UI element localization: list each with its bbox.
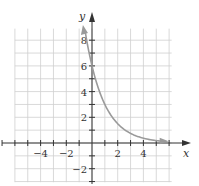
x-tick-label: 2 [115, 148, 121, 159]
y-axis-arrow-icon [89, 12, 95, 22]
y-tick-label: −2 [72, 164, 87, 175]
x-tick-label: −4 [33, 148, 48, 159]
data-curve [81, 25, 169, 144]
axes [2, 12, 191, 184]
x-tick-label: −2 [59, 148, 74, 159]
y-tick-label: 6 [81, 61, 87, 72]
exponential-decay-graph: −4−224−22468 x y [0, 0, 199, 186]
x-axis-label: x [183, 147, 190, 160]
curve-arrow-top-icon [81, 25, 88, 35]
grid-lines [15, 29, 172, 183]
x-axis-arrow-icon [182, 140, 191, 146]
y-axis-label: y [78, 10, 86, 23]
x-tick-label: 4 [140, 148, 146, 159]
y-tick-label: 4 [81, 87, 87, 98]
decay-curve [85, 30, 163, 141]
y-tick-label: 2 [81, 112, 87, 123]
